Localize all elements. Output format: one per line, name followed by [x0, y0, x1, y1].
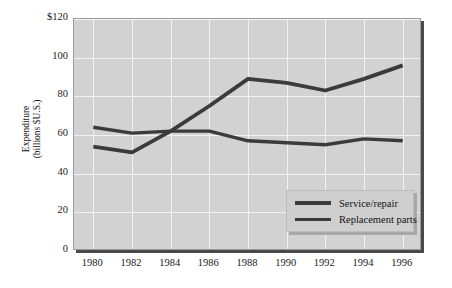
legend-swatch-replacement-parts — [295, 218, 331, 221]
y-axis-title-line1: Expenditure — [21, 59, 32, 199]
legend-label-service-repair: Service/repair — [339, 198, 398, 209]
legend-item-replacement-parts: Replacement parts — [295, 211, 417, 227]
x-tick-1996: 1996 — [378, 258, 426, 269]
legend-item-service-repair: Service/repair — [295, 195, 398, 211]
y-axis-title-line2: (billions $U.S.) — [32, 59, 43, 199]
y-tick-120: $120 — [0, 12, 75, 23]
chart-figure: 020406080100$120 19801982198419861988199… — [0, 0, 452, 288]
legend-label-replacement-parts: Replacement parts — [339, 214, 417, 225]
y-tick-0: 0 — [0, 244, 75, 255]
series-line-service-repair — [93, 127, 402, 144]
legend-swatch-service-repair — [295, 201, 331, 205]
y-axis-title: Expenditure (billions $U.S.) — [21, 59, 43, 199]
y-tick-20: 20 — [0, 205, 75, 216]
chart-legend: Service/repair Replacement parts — [286, 190, 414, 232]
